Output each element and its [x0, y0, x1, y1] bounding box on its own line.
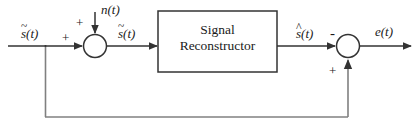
- noise-signal-arg: (t): [108, 2, 120, 17]
- input-signal-label: ~s(t): [21, 27, 38, 40]
- noisy-signal-symbol: ~s: [118, 27, 123, 40]
- signal-reconstructor-label: Signal Reconstructor: [158, 22, 277, 55]
- input-signal-arg: (t): [26, 26, 38, 41]
- block-label-line-1: Signal: [158, 22, 277, 38]
- block-label-line-2: Reconstructor: [158, 38, 277, 54]
- block-diagram-svg: [0, 0, 419, 132]
- error-signal-label: e(t): [375, 25, 393, 38]
- input-signal-symbol: ~s: [21, 27, 26, 40]
- noisy-signal-accent: ~: [118, 21, 123, 32]
- feedback-tap-node: [44, 45, 46, 47]
- noisy-signal-label: ~s(t): [118, 27, 135, 40]
- reconstructed-signal-arg: (t): [301, 26, 313, 41]
- noise-signal-label: n(t): [101, 3, 120, 16]
- summer2-top-sign: -: [330, 26, 335, 41]
- input-signal-accent: ~: [21, 21, 26, 32]
- noisy-signal-arg: (t): [123, 26, 135, 41]
- error-signal-arg: (t): [381, 24, 393, 39]
- reconstructed-signal-accent: ^: [296, 22, 301, 34]
- summing-junction-1: [84, 35, 107, 58]
- reconstructed-signal-symbol: ^s: [296, 27, 301, 40]
- summer2-feedback-sign: +: [329, 64, 336, 77]
- reconstructed-signal-label: ^s(t): [296, 27, 313, 40]
- summer1-input-sign: +: [62, 31, 69, 44]
- block-diagram-canvas: ~s(t) + + n(t) ~s(t) Signal Reconstructo…: [0, 0, 419, 132]
- summing-junction-2: [337, 35, 360, 58]
- summer1-noise-sign: +: [76, 16, 83, 29]
